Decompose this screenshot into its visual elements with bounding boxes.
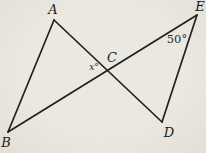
segment-B-A	[8, 20, 54, 132]
triangle-diagram-svg: A E B D C x° 50°	[0, 0, 206, 153]
vertex-label-A: A	[47, 2, 57, 17]
vertex-label-E: E	[194, 0, 205, 14]
vertex-label-C: C	[107, 50, 117, 65]
geometry-figure: A E B D C x° 50°	[0, 0, 206, 153]
angle-label-50-at-E: 50°	[167, 32, 187, 46]
vertex-label-B: B	[0, 135, 11, 150]
vertex-label-D: D	[163, 125, 175, 140]
angle-label-x-at-C: x°	[89, 62, 99, 72]
